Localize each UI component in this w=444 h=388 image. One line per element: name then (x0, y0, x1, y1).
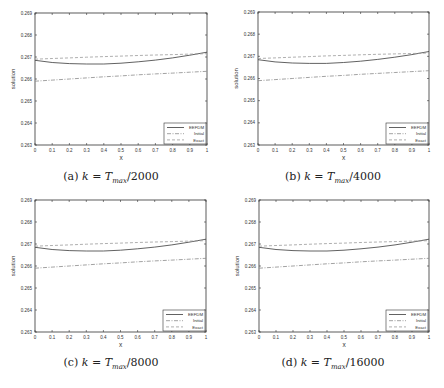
y-axis-label: solution (10, 256, 16, 277)
x-tick-label: 0.4 (101, 148, 108, 153)
y-tick-label: 0.263 (21, 330, 33, 335)
x-tick-label: 1 (205, 335, 208, 340)
y-tick-label: 0.269 (245, 198, 257, 203)
y-tick-label: 0.268 (245, 220, 257, 225)
x-tick-label: 0.1 (273, 335, 280, 340)
chart-b: 00.10.20.30.40.50.60.70.80.910.2630.2640… (222, 0, 444, 170)
x-tick-label: 1 (206, 148, 209, 153)
y-tick-label: 0.265 (244, 98, 256, 103)
x-tick-label: 0.2 (66, 148, 73, 153)
y-tick-label: 0.268 (21, 33, 33, 38)
chart-d: 00.10.20.30.40.50.60.70.80.910.2630.2640… (222, 194, 444, 354)
caption-a: (a) k = Tmax/2000 (0, 170, 222, 185)
x-tick-label: 0.9 (409, 335, 416, 340)
caption-b: (b) k = Tmax/4000 (222, 170, 444, 185)
legend-label: Exact (415, 138, 427, 143)
x-tick-label: 0.4 (323, 148, 330, 153)
legend-label: EEFDM (411, 312, 426, 317)
legend-label: EEFDM (188, 312, 203, 317)
y-axis-label: solution (233, 68, 239, 89)
x-tick-label: 0.2 (66, 335, 73, 340)
y-tick-label: 0.269 (21, 11, 33, 16)
x-tick-label: 0 (34, 148, 37, 153)
x-tick-label: 0.9 (187, 148, 194, 153)
y-tick-label: 0.265 (21, 286, 33, 291)
y-tick-label: 0.264 (244, 120, 256, 125)
y-tick-label: 0.265 (21, 99, 33, 104)
x-axis-label: x (342, 154, 346, 161)
y-tick-label: 0.267 (244, 54, 256, 59)
x-tick-label: 0.2 (290, 335, 297, 340)
x-tick-label: 0.5 (341, 335, 348, 340)
x-tick-label: 0.9 (409, 148, 416, 153)
legend-label: Exact (192, 325, 204, 330)
x-tick-label: 0.3 (83, 148, 90, 153)
x-tick-label: 0.1 (49, 335, 56, 340)
x-tick-label: 0.8 (392, 148, 399, 153)
y-tick-label: 0.267 (21, 55, 33, 60)
y-tick-label: 0.268 (21, 220, 33, 225)
chart-a: 00.10.20.30.40.50.60.70.80.910.2630.2640… (0, 0, 222, 170)
y-tick-label: 0.263 (21, 143, 33, 148)
legend-label: Initial (416, 131, 426, 136)
y-tick-label: 0.267 (245, 242, 257, 247)
x-tick-label: 0.3 (307, 335, 314, 340)
x-tick-label: 0.6 (357, 148, 364, 153)
x-tick-label: 0 (34, 335, 37, 340)
legend-label: Initial (416, 318, 426, 323)
y-axis-label: solution (234, 256, 240, 277)
y-tick-label: 0.265 (245, 286, 257, 291)
panel-a: 00.10.20.30.40.50.60.70.80.910.2630.2640… (0, 0, 222, 194)
x-tick-label: 0.7 (375, 148, 382, 153)
panel-b: 00.10.20.30.40.50.60.70.80.910.2630.2640… (222, 0, 444, 194)
y-tick-label: 0.267 (21, 242, 33, 247)
x-tick-label: 0.5 (117, 335, 124, 340)
x-axis-label: x (119, 154, 123, 161)
x-tick-label: 0.6 (134, 335, 141, 340)
y-tick-label: 0.266 (244, 76, 256, 81)
x-tick-label: 0.1 (272, 148, 279, 153)
x-tick-label: 0.7 (375, 335, 382, 340)
x-tick-label: 0.9 (186, 335, 193, 340)
y-tick-label: 0.266 (21, 77, 33, 82)
legend-label: Exact (193, 138, 205, 143)
x-tick-label: 0.4 (324, 335, 331, 340)
legend-label: EEFDM (189, 125, 204, 130)
y-tick-label: 0.269 (244, 10, 256, 15)
caption-c: (c) k = Tmax/8000 (0, 356, 222, 371)
x-tick-label: 0.6 (135, 148, 142, 153)
y-tick-label: 0.263 (244, 143, 256, 148)
x-tick-label: 0 (258, 335, 261, 340)
y-tick-label: 0.264 (245, 308, 257, 313)
x-tick-label: 0.6 (358, 335, 365, 340)
x-axis-label: x (342, 341, 346, 348)
x-tick-label: 0.7 (152, 335, 159, 340)
x-axis-label: x (119, 341, 123, 348)
legend-label: EEFDM (411, 125, 426, 130)
panel-d: 00.10.20.30.40.50.60.70.80.910.2630.2640… (222, 194, 444, 388)
y-axis-label: solution (10, 69, 16, 90)
x-tick-label: 0.8 (169, 148, 176, 153)
x-tick-label: 0.1 (49, 148, 56, 153)
x-tick-label: 1 (428, 335, 431, 340)
x-tick-label: 0.8 (169, 335, 176, 340)
x-tick-label: 0 (257, 148, 260, 153)
x-tick-label: 0.3 (306, 148, 313, 153)
y-tick-label: 0.269 (21, 198, 33, 203)
y-tick-label: 0.264 (21, 121, 33, 126)
legend-label: Initial (193, 318, 203, 323)
y-tick-label: 0.266 (21, 264, 33, 269)
panel-c: 00.10.20.30.40.50.60.70.80.910.2630.2640… (0, 194, 222, 388)
x-tick-label: 0.4 (100, 335, 107, 340)
x-tick-label: 0.2 (289, 148, 296, 153)
y-tick-label: 0.266 (245, 264, 257, 269)
y-tick-label: 0.263 (245, 330, 257, 335)
chart-c: 00.10.20.30.40.50.60.70.80.910.2630.2640… (0, 194, 222, 354)
x-tick-label: 1 (428, 148, 431, 153)
legend-label: Exact (415, 325, 427, 330)
x-tick-label: 0.5 (118, 148, 125, 153)
y-tick-label: 0.268 (244, 32, 256, 37)
y-tick-label: 0.264 (21, 308, 33, 313)
x-tick-label: 0.8 (392, 335, 399, 340)
caption-d: (d) k = Tmax/16000 (222, 356, 444, 371)
